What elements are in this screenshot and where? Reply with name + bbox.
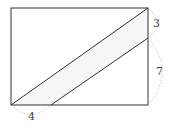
label-4: 4 [28,110,35,123]
label-7: 7 [156,65,163,78]
diagonal-line [11,8,148,105]
label-3: 3 [153,17,160,30]
geometry-diagram: 3 7 4 [0,0,172,125]
